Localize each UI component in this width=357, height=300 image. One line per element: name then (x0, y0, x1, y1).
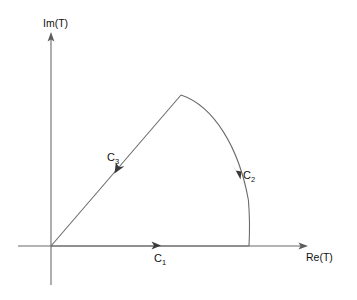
contour-label-c1: C (154, 252, 162, 264)
contour-label-c3-group: C 3 (107, 151, 119, 166)
real-axis-label: Re(T) (306, 251, 333, 263)
contour-segment-c2 (181, 95, 250, 246)
contour-diagram: Im(T) Re(T) C 1 C 2 C 3 (0, 0, 357, 300)
contour-label-c1-group: C 1 (154, 252, 166, 267)
contour-plot-canvas: Im(T) Re(T) C 1 C 2 C 3 (0, 0, 357, 300)
contour-label-c2-subscript: 2 (251, 175, 255, 184)
contour-label-c3: C (107, 151, 115, 163)
contour-label-c2: C (243, 169, 251, 181)
contour-group (51, 95, 250, 250)
contour-label-c1-subscript: 1 (162, 258, 166, 267)
contour-label-c3-subscript: 3 (115, 157, 119, 166)
axes-group (18, 32, 308, 285)
imaginary-axis-label: Im(T) (43, 17, 68, 29)
